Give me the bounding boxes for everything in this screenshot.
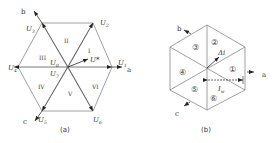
sector-b-1: ①	[229, 65, 236, 74]
label-u1: U1	[118, 59, 127, 68]
label-u-star: U*	[90, 56, 100, 64]
axis-label-b-2: b	[177, 25, 182, 33]
space-vector-diagrams: b a c U1 U2 U3 U4 U5 U6 U0 U7 U* I II II…	[0, 0, 279, 143]
vector-u6	[68, 67, 93, 111]
axis-b	[34, 11, 42, 23]
label-u2: U2	[100, 19, 109, 28]
label-u5: U5	[38, 116, 47, 125]
label-u3: U3	[26, 25, 35, 34]
label-u4: U4	[8, 64, 17, 73]
axis-label-b: b	[21, 8, 26, 16]
sector-2: II	[64, 37, 69, 44]
sector-1: I	[88, 47, 91, 54]
axis-label-a-2: a	[262, 71, 266, 79]
diagram-b: b a c Δi Iw ① ② ③ ④ ⑤ ⑥ (b)	[170, 25, 266, 134]
axis-b-arrow-b	[184, 30, 191, 34]
sector-6: VI	[91, 83, 99, 90]
sector-b-3: ③	[192, 43, 199, 52]
axis-label-c-2: c	[175, 110, 179, 118]
sector-b-6: ⑥	[210, 94, 217, 103]
sector-b-4: ④	[179, 68, 186, 77]
width-label: Iw	[217, 85, 225, 94]
sector-4: IV	[38, 83, 45, 90]
caption-a: (a)	[60, 126, 70, 134]
label-u7: U7	[50, 70, 59, 79]
sector-b-5: ⑤	[191, 85, 198, 94]
sector-b-2: ②	[211, 38, 218, 47]
axis-c-arrow-b	[184, 102, 190, 106]
delta-i-label: Δi	[217, 49, 225, 57]
sector-3: III	[39, 54, 47, 61]
sector-5: V	[67, 90, 73, 97]
label-u0: U0	[50, 59, 59, 68]
diagram-a: b a c U1 U2 U3 U4 U5 U6 U0 U7 U* I II II…	[8, 8, 131, 134]
axis-label-a: a	[127, 66, 131, 74]
axis-label-c: c	[23, 118, 27, 126]
label-u6: U6	[93, 116, 102, 125]
caption-b: (b)	[201, 126, 211, 134]
